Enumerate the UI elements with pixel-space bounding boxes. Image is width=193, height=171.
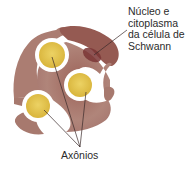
nucleus-label-line-3: da célula de — [128, 29, 193, 41]
nucleus-label-line-4: Schwann — [128, 41, 193, 53]
axon-right — [64, 69, 96, 101]
axon-bottom-left — [22, 90, 54, 122]
nucleus-label: Núcleo e citoplasma da célula de Schwann — [128, 6, 193, 52]
axon-top-left — [35, 38, 69, 72]
nucleus-label-line-1: Núcleo e — [128, 6, 193, 18]
axons-label: Axônios — [61, 150, 98, 162]
